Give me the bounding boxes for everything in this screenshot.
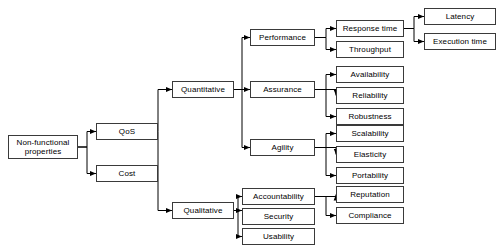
edge-qos-to-quantitative bbox=[158, 90, 172, 132]
node-scalability[interactable]: Scalability bbox=[336, 125, 404, 142]
node-portability[interactable]: Portability bbox=[336, 167, 404, 184]
node-performance[interactable]: Performance bbox=[250, 29, 315, 46]
node-cost[interactable]: Cost bbox=[96, 165, 158, 182]
edge-response_time-to-latency bbox=[404, 17, 424, 29]
node-qualitative[interactable]: Qualitative bbox=[172, 202, 234, 219]
node-accountability[interactable]: Accountability bbox=[242, 188, 315, 205]
diagram-canvas: Non-functional propertiesQoSCostQuantita… bbox=[0, 0, 504, 252]
node-robustness[interactable]: Robustness bbox=[336, 108, 404, 125]
node-execution_time[interactable]: Execution time bbox=[424, 33, 496, 50]
node-availability[interactable]: Availability bbox=[336, 66, 404, 83]
edge-quantitative-to-performance bbox=[234, 38, 250, 90]
edge-qualitative-to-accountability bbox=[234, 197, 242, 211]
edge-quantitative-to-agility bbox=[234, 90, 250, 148]
edge-agility-to-portability bbox=[315, 148, 336, 176]
node-security[interactable]: Security bbox=[242, 208, 315, 225]
node-quantitative[interactable]: Quantitative bbox=[172, 81, 234, 98]
edge-agility-to-scalability bbox=[315, 134, 336, 148]
edge-root-to-cost bbox=[78, 147, 96, 174]
edge-assurance-to-robustness bbox=[315, 90, 336, 117]
edge-assurance-to-availability bbox=[315, 75, 336, 90]
node-elasticity[interactable]: Elasticity bbox=[336, 146, 404, 163]
edge-performance-to-response_time bbox=[315, 29, 336, 38]
node-agility[interactable]: Agility bbox=[250, 139, 315, 156]
node-reliability[interactable]: Reliability bbox=[336, 87, 404, 104]
node-qos[interactable]: QoS bbox=[96, 123, 158, 140]
edge-qualitative-to-usability bbox=[234, 211, 242, 237]
edge-qos-to-qualitative bbox=[158, 132, 172, 211]
node-compliance[interactable]: Compliance bbox=[336, 207, 404, 224]
node-assurance[interactable]: Assurance bbox=[250, 81, 315, 98]
node-latency[interactable]: Latency bbox=[424, 8, 496, 25]
node-reputation[interactable]: Reputation bbox=[336, 186, 404, 203]
node-throughput[interactable]: Throughput bbox=[336, 41, 404, 58]
edge-accountability-to-compliance bbox=[315, 197, 336, 216]
edge-performance-to-throughput bbox=[315, 38, 336, 50]
node-usability[interactable]: Usability bbox=[242, 228, 315, 245]
edge-response_time-to-execution_time bbox=[404, 29, 424, 42]
node-root[interactable]: Non-functional properties bbox=[8, 135, 78, 159]
edge-root-to-qos bbox=[78, 132, 96, 148]
node-response_time[interactable]: Response time bbox=[336, 20, 404, 37]
